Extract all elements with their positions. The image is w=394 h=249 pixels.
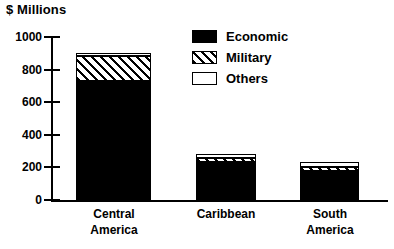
category-label-line: America [280, 222, 380, 238]
diagonal-hatch-swatch [192, 51, 217, 64]
y-axis-tick [44, 101, 60, 103]
y-axis-tick [44, 69, 60, 71]
y-axis-tick [44, 134, 60, 136]
bar-segment-military [196, 158, 256, 162]
bar-segment-economic [76, 81, 151, 200]
legend-item-military: Military [192, 48, 288, 67]
legend-item-others: Others [192, 69, 288, 88]
bar-south-america [300, 162, 359, 200]
legend-item-label: Others [226, 71, 268, 86]
bar-segment-economic [196, 162, 256, 200]
white-outline-swatch [192, 72, 217, 85]
bar-segment-military [300, 167, 359, 170]
chart-title: $ Millions [6, 2, 66, 17]
bar-segment-military [76, 56, 151, 81]
legend-item-label: Military [226, 50, 272, 65]
bar-segment-others [300, 162, 359, 168]
category-label: Caribbean [176, 206, 276, 222]
category-label-line: Caribbean [176, 206, 276, 222]
bar-central-america [76, 53, 151, 201]
solid-black-swatch [192, 30, 217, 43]
y-axis-tick-label: 800 [2, 63, 42, 77]
y-axis-tick-label: 400 [2, 128, 42, 142]
y-axis-line [51, 37, 53, 201]
bar-segment-economic [300, 171, 359, 200]
category-label-line: Central [56, 206, 172, 222]
bar-caribbean [196, 154, 256, 200]
category-label-line: America [56, 222, 172, 238]
bar-chart: $ Millions 02004006008001000 CentralAmer… [0, 0, 394, 249]
y-axis-tick [44, 166, 60, 168]
bar-segment-others [196, 154, 256, 157]
x-axis-line [51, 200, 388, 202]
category-label-line: South [280, 206, 380, 222]
y-axis-tick-label: 200 [2, 160, 42, 174]
y-axis-tick-label: 600 [2, 95, 42, 109]
category-label: SouthAmerica [280, 206, 380, 238]
legend: EconomicMilitaryOthers [192, 27, 288, 90]
y-axis-tick-label: 1000 [2, 30, 42, 44]
y-axis-tick-label: 0 [2, 193, 42, 207]
y-axis-tick [44, 36, 60, 38]
legend-item-label: Economic [226, 29, 288, 44]
category-label: CentralAmerica [56, 206, 172, 238]
bar-segment-others [76, 53, 151, 56]
legend-item-economic: Economic [192, 27, 288, 46]
